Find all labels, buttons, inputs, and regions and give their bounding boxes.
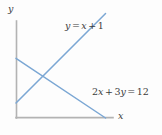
line2-rhs: 12: [137, 86, 149, 97]
line1-plus: +: [87, 20, 98, 31]
line1-constant: 1: [98, 20, 104, 31]
line2-variable-2: y: [120, 86, 125, 97]
line1-equals: =: [70, 20, 81, 31]
x-axis-label: x: [118, 111, 123, 121]
line2-equals: =: [126, 86, 137, 97]
equation-label-line2: 2x+3y=12: [92, 87, 149, 97]
y-axis-label: y: [8, 4, 13, 14]
line1-variable: x: [81, 20, 86, 31]
equation-label-line1: y=x+1: [65, 21, 104, 31]
line2-plus: +: [103, 86, 114, 97]
graph-figure: y x y=x+1 2x+3y=12: [0, 0, 162, 135]
